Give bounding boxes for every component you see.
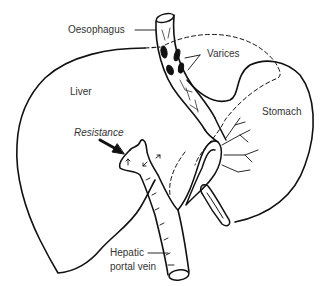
varix-3: [165, 64, 175, 76]
portal-vein-right-wall: [178, 210, 189, 272]
gastric-vein-to-oesophagus: [205, 118, 226, 142]
gastric-vein-loop: [178, 141, 221, 210]
varix-1: [160, 46, 168, 59]
resistance-arrow-head: [112, 144, 124, 154]
gastric-branches: [222, 118, 258, 172]
portal-vein-end: [168, 269, 189, 282]
label-liver: Liver: [70, 86, 92, 98]
label-hepatic: Hepatic: [110, 247, 144, 259]
oesophagus-left-wall: [156, 21, 205, 130]
varices-pointer: [185, 55, 200, 70]
diagram-canvas: [0, 0, 333, 286]
dashed-outline-lower: [170, 152, 185, 195]
oesophagus-top: [155, 12, 174, 24]
liver-outline: [17, 48, 155, 273]
label-resistance: Resistance: [74, 127, 123, 139]
portal-vein-notch: [130, 140, 178, 210]
label-oesophagus: Oesophagus: [68, 24, 125, 36]
label-portal-vein: portal vein: [110, 261, 156, 273]
label-stomach: Stomach: [262, 106, 301, 118]
stomach-outline: [187, 61, 313, 222]
label-varices: Varices: [207, 48, 240, 60]
